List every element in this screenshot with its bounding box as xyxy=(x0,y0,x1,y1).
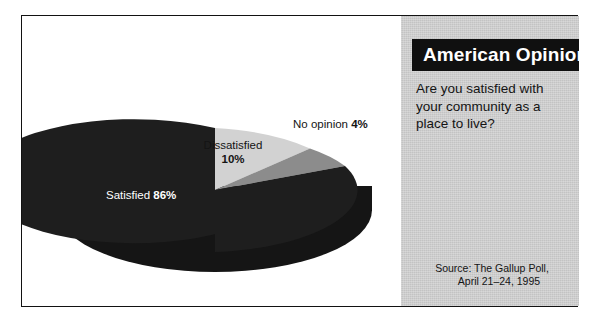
sidebar-banner-title: American Opinion xyxy=(412,44,579,66)
figure-frame: Satisfied 86% Dissatisfied10% No opinion… xyxy=(21,15,578,307)
pie-label-satisfied: Satisfied 86% xyxy=(106,188,176,202)
figure-canvas: Satisfied 86% Dissatisfied10% No opinion… xyxy=(0,0,599,327)
sidebar-source-note: Source: The Gallup Poll, April 21–24, 19… xyxy=(417,262,567,288)
pie-chart: Satisfied 86% Dissatisfied10% No opinion… xyxy=(22,16,401,306)
sidebar-banner: American Opinion xyxy=(412,39,579,71)
sidebar-panel: American Opinion Are you satisfied with … xyxy=(401,16,579,306)
pie-label-dissatisfied: Dissatisfied10% xyxy=(196,138,270,166)
sidebar-question-text: Are you satisfied with your community as… xyxy=(416,80,571,133)
pie-label-no-opinion: No opinion 4% xyxy=(293,117,368,131)
source-line-1: Source: The Gallup Poll, xyxy=(435,262,549,274)
source-line-2: April 21–24, 1995 xyxy=(417,275,567,288)
